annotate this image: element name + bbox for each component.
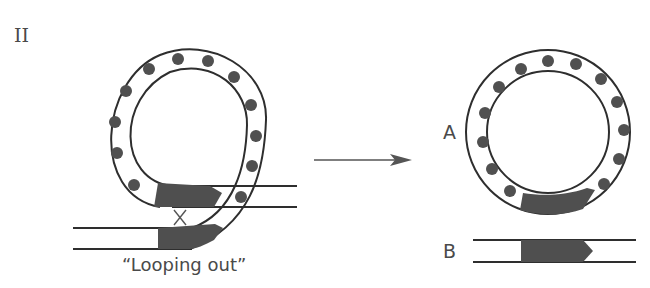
looping-out-caption: “Looping out” [122,254,246,275]
label-a: A [443,121,456,143]
crossover-icon [174,210,186,225]
gene-block-b [521,240,593,262]
arrow-icon [314,154,412,166]
gene-block-lower [158,224,223,249]
recombination-diagram [0,0,650,288]
label-b: B [443,240,456,262]
linear-product-b [473,240,636,262]
circular-product-a [466,50,630,214]
looping-out-structure [73,49,297,249]
